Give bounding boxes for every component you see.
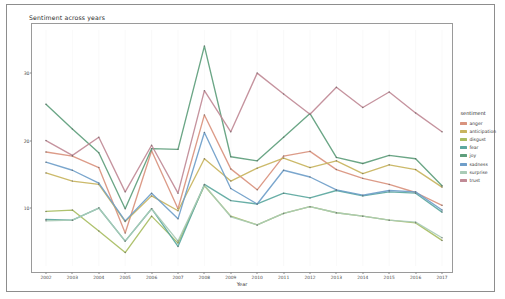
- x-tick-mark: [72, 272, 73, 274]
- data-point: [204, 184, 206, 186]
- x-tick-mark: [442, 272, 443, 274]
- legend-item-sadness[interactable]: sadness: [460, 160, 505, 168]
- data-point: [45, 161, 47, 163]
- data-point: [256, 203, 258, 205]
- data-point: [441, 185, 443, 187]
- x-axis-label: Year: [31, 281, 453, 287]
- data-point: [72, 170, 74, 172]
- legend-swatch-sadness: [460, 163, 467, 166]
- data-point: [388, 219, 390, 221]
- data-point: [336, 169, 338, 171]
- data-point: [177, 240, 179, 242]
- data-point: [415, 158, 417, 160]
- data-point: [388, 191, 390, 193]
- data-point: [72, 128, 74, 130]
- legend-item-anticipation[interactable]: anticipation: [460, 128, 505, 136]
- data-point: [283, 192, 285, 194]
- data-point: [362, 215, 364, 217]
- data-point: [336, 189, 338, 191]
- x-tick-mark: [151, 272, 152, 274]
- data-point: [230, 156, 232, 158]
- legend-item-joy[interactable]: joy: [460, 152, 505, 160]
- data-point: [45, 151, 47, 153]
- x-tick-mark: [310, 272, 311, 274]
- x-tick-label: 2010: [252, 275, 263, 280]
- data-point: [204, 45, 206, 47]
- data-point: [441, 209, 443, 211]
- legend-swatch-anger: [460, 122, 467, 125]
- legend-item-anger[interactable]: anger: [460, 120, 505, 128]
- data-point: [388, 91, 390, 93]
- data-point: [336, 157, 338, 159]
- x-tick-mark: [125, 272, 126, 274]
- legend-label: disgust: [470, 137, 486, 142]
- data-point: [98, 136, 100, 138]
- x-tick-label: 2005: [120, 275, 131, 280]
- y-tick-label: 30: [24, 71, 30, 76]
- data-point: [177, 149, 179, 151]
- data-point: [336, 87, 338, 89]
- data-point: [309, 151, 311, 153]
- data-point: [336, 160, 338, 162]
- data-point: [45, 211, 47, 213]
- data-point: [177, 246, 179, 248]
- data-point: [336, 212, 338, 214]
- x-tick-mark: [204, 272, 205, 274]
- data-point: [177, 192, 179, 194]
- data-point: [124, 191, 126, 193]
- data-point: [415, 191, 417, 193]
- data-point: [124, 220, 126, 222]
- legend-label: trust: [470, 178, 481, 183]
- data-point: [151, 148, 153, 150]
- x-tick-mark: [415, 272, 416, 274]
- data-point: [441, 211, 443, 213]
- data-point: [45, 140, 47, 142]
- legend-item-disgust[interactable]: disgust: [460, 136, 505, 144]
- x-tick-mark: [389, 272, 390, 274]
- legend-label: sadness: [470, 162, 488, 167]
- data-point: [415, 112, 417, 114]
- legend-label: surprise: [470, 170, 488, 175]
- data-point: [230, 188, 232, 190]
- data-point: [98, 230, 100, 232]
- data-point: [388, 190, 390, 192]
- y-tick-label: 10: [24, 206, 30, 211]
- y-tick-mark: [30, 73, 32, 74]
- x-tick-mark: [98, 272, 99, 274]
- data-point: [230, 168, 232, 170]
- legend-items: angeranticipationdisgustfearjoysadnesssu…: [460, 120, 505, 185]
- legend-title: sentiment: [460, 110, 505, 116]
- legend-swatch-joy: [460, 154, 467, 157]
- data-point: [98, 152, 100, 154]
- data-point: [283, 157, 285, 159]
- data-point: [256, 189, 258, 191]
- x-tick-label: 2016: [410, 275, 421, 280]
- legend-item-surprise[interactable]: surprise: [460, 168, 505, 176]
- plot-area: [32, 24, 452, 272]
- legend-label: joy: [470, 153, 477, 158]
- data-point: [283, 93, 285, 95]
- data-point: [72, 155, 74, 157]
- chart-frame: Sentiment across years Mean sentiment sc…: [6, 4, 495, 292]
- legend: sentiment angeranticipationdisgustfearjo…: [460, 110, 505, 184]
- legend-item-fear[interactable]: fear: [460, 144, 505, 152]
- y-tick-mark: [30, 140, 32, 141]
- data-point: [204, 90, 206, 92]
- data-point: [283, 213, 285, 215]
- data-point: [124, 240, 126, 242]
- data-point: [283, 136, 285, 138]
- data-point: [230, 180, 232, 182]
- y-tick-mark: [30, 208, 32, 209]
- data-point: [362, 173, 364, 175]
- data-point: [45, 220, 47, 222]
- data-point: [441, 186, 443, 188]
- x-tick-label: 2017: [436, 275, 447, 280]
- data-point: [230, 216, 232, 218]
- legend-label: anger: [470, 121, 483, 126]
- data-point: [45, 103, 47, 105]
- data-point: [388, 164, 390, 166]
- legend-item-trust[interactable]: trust: [460, 176, 505, 184]
- legend-label: fear: [470, 145, 479, 150]
- data-point: [98, 167, 100, 169]
- data-point: [45, 219, 47, 221]
